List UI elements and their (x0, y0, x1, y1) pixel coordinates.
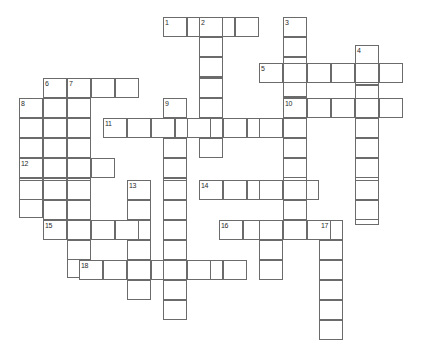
crossword-cell[interactable] (283, 180, 307, 200)
crossword-cell[interactable] (67, 158, 91, 178)
crossword-cell[interactable] (355, 138, 379, 158)
crossword-cell[interactable] (91, 220, 115, 240)
crossword-cell[interactable] (163, 158, 187, 178)
crossword-cell[interactable] (43, 98, 67, 118)
crossword-cell[interactable] (283, 37, 307, 57)
crossword-cell[interactable] (67, 138, 91, 158)
crossword-cell[interactable] (319, 240, 343, 260)
crossword-cell[interactable] (199, 78, 223, 98)
crossword-cell[interactable] (355, 158, 379, 178)
crossword-cell[interactable] (103, 118, 127, 138)
crossword-cell[interactable] (163, 200, 187, 220)
crossword-cell[interactable] (67, 118, 91, 138)
crossword-cell[interactable] (199, 57, 223, 77)
crossword-cell[interactable] (127, 200, 151, 220)
crossword-cell[interactable] (379, 98, 403, 118)
crossword-cell[interactable] (151, 118, 175, 138)
crossword-cell[interactable] (79, 260, 103, 280)
crossword-cell[interactable] (199, 17, 223, 37)
crossword-cell[interactable] (67, 200, 91, 220)
crossword-cell[interactable] (259, 63, 283, 83)
crossword-cell[interactable] (223, 118, 247, 138)
crossword-cell[interactable] (163, 240, 187, 260)
crossword-cell[interactable] (283, 220, 307, 240)
crossword-cell[interactable] (307, 63, 331, 83)
crossword-cell[interactable] (319, 320, 343, 340)
crossword-cell[interactable] (91, 78, 115, 98)
crossword-cell[interactable] (19, 98, 43, 118)
crossword-cell[interactable] (223, 180, 247, 200)
crossword-cell[interactable] (187, 118, 211, 138)
crossword-cell[interactable] (43, 118, 67, 138)
crossword-cell[interactable] (67, 78, 91, 98)
crossword-cell[interactable] (355, 180, 379, 200)
crossword-cell[interactable] (307, 220, 331, 240)
crossword-cell[interactable] (163, 300, 187, 320)
crossword-cell[interactable] (19, 198, 43, 218)
crossword-cell[interactable] (283, 98, 307, 118)
crossword-cell[interactable] (355, 200, 379, 220)
crossword-cell[interactable] (379, 63, 403, 83)
crossword-cell[interactable] (19, 118, 43, 138)
crossword-cell[interactable] (163, 260, 187, 280)
crossword-cell[interactable] (43, 200, 67, 220)
crossword-cell[interactable] (127, 240, 151, 260)
crossword-cell[interactable] (219, 220, 243, 240)
crossword-cell[interactable] (223, 260, 247, 280)
crossword-cell[interactable] (163, 220, 187, 240)
crossword-cell[interactable] (127, 180, 151, 200)
crossword-cell[interactable] (67, 220, 91, 240)
crossword-cell[interactable] (67, 180, 91, 200)
crossword-cell[interactable] (163, 280, 187, 300)
crossword-cell[interactable] (163, 17, 187, 37)
crossword-cell[interactable] (319, 300, 343, 320)
crossword-cell[interactable] (43, 180, 67, 200)
crossword-cell[interactable] (43, 138, 67, 158)
crossword-cell[interactable] (43, 78, 67, 98)
crossword-cell[interactable] (103, 260, 127, 280)
crossword-cell[interactable] (19, 158, 43, 178)
crossword-cell[interactable] (187, 260, 211, 280)
crossword-cell[interactable] (43, 158, 67, 178)
crossword-cell[interactable] (331, 98, 355, 118)
crossword-cell[interactable] (259, 118, 283, 138)
crossword-cell[interactable] (283, 200, 307, 220)
crossword-cell[interactable] (43, 220, 67, 240)
crossword-cell[interactable] (331, 63, 355, 83)
crossword-cell[interactable] (319, 260, 343, 280)
crossword-cell[interactable] (283, 17, 307, 37)
crossword-cell[interactable] (259, 260, 283, 280)
crossword-cell[interactable] (163, 180, 187, 200)
crossword-cell[interactable] (199, 180, 223, 200)
crossword-cell[interactable] (319, 280, 343, 300)
crossword-grid[interactable]: 123456789101112131415161718 (0, 0, 423, 351)
crossword-cell[interactable] (259, 240, 283, 260)
crossword-cell[interactable] (283, 138, 307, 158)
crossword-cell[interactable] (127, 260, 151, 280)
crossword-cell[interactable] (127, 280, 151, 300)
crossword-cell[interactable] (199, 37, 223, 57)
crossword-cell[interactable] (283, 63, 307, 83)
crossword-cell[interactable] (115, 78, 139, 98)
crossword-cell[interactable] (259, 220, 283, 240)
crossword-cell[interactable] (235, 17, 259, 37)
crossword-cell[interactable] (163, 98, 187, 118)
crossword-cell[interactable] (307, 98, 331, 118)
crossword-cell[interactable] (163, 138, 187, 158)
crossword-cell[interactable] (259, 180, 283, 200)
crossword-cell[interactable] (19, 180, 43, 200)
crossword-cell[interactable] (19, 138, 43, 158)
crossword-cell[interactable] (283, 158, 307, 178)
crossword-cell[interactable] (355, 63, 379, 83)
crossword-cell[interactable] (127, 118, 151, 138)
crossword-cell[interactable] (355, 45, 379, 65)
crossword-cell[interactable] (199, 138, 223, 158)
crossword-cell[interactable] (115, 220, 139, 240)
crossword-cell[interactable] (91, 158, 115, 178)
crossword-cell[interactable] (67, 98, 91, 118)
crossword-cell[interactable] (283, 118, 307, 138)
crossword-cell[interactable] (67, 240, 91, 260)
crossword-cell[interactable] (355, 118, 379, 138)
crossword-cell[interactable] (199, 98, 223, 118)
crossword-cell[interactable] (355, 98, 379, 118)
